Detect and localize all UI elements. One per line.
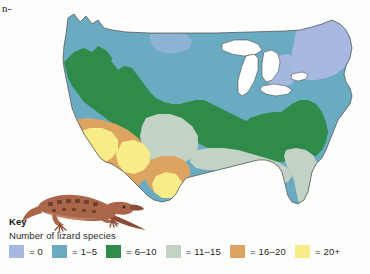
legend-swatch-16-20 bbox=[230, 245, 245, 258]
legend-swatch-6-10 bbox=[106, 245, 121, 258]
legend-item-16-20[interactable]: = 16–20 bbox=[230, 245, 286, 258]
map-region-twenty-plus-mojave bbox=[52, 142, 72, 174]
legend-title: Key bbox=[9, 216, 367, 228]
lizard-eye bbox=[123, 206, 126, 209]
legend-swatch-1-5 bbox=[52, 245, 67, 258]
legend-label-6-10: = 6–10 bbox=[126, 246, 157, 257]
legend-label-0: = 0 bbox=[29, 246, 43, 257]
legend-label-1-5: = 1–5 bbox=[72, 246, 97, 257]
legend-label-11-15: = 11–15 bbox=[186, 246, 221, 257]
lizard-snout bbox=[130, 205, 144, 211]
legend-item-11-15[interactable]: = 11–15 bbox=[166, 245, 221, 258]
legend-swatch-20-plus bbox=[295, 245, 310, 258]
legend-swatch-0 bbox=[9, 245, 24, 258]
figure-page: n- bbox=[0, 0, 370, 274]
legend-item-1-5[interactable]: = 1–5 bbox=[52, 245, 97, 258]
map-legend: Key Number of lizard species = 0 = 1–5 =… bbox=[9, 216, 367, 258]
legend-label-20-plus: = 20+ bbox=[315, 246, 340, 257]
legend-item-6-10[interactable]: = 6–10 bbox=[106, 245, 157, 258]
legend-item-20-plus[interactable]: = 20+ bbox=[295, 245, 340, 258]
legend-items: = 0 = 1–5 = 6–10 = 11–15 = 16–20 = 20+ bbox=[9, 245, 367, 258]
legend-subtitle: Number of lizard species bbox=[9, 229, 367, 242]
legend-item-0[interactable]: = 0 bbox=[9, 245, 43, 258]
legend-swatch-11-15 bbox=[166, 245, 181, 258]
legend-label-16-20: = 16–20 bbox=[250, 246, 286, 257]
